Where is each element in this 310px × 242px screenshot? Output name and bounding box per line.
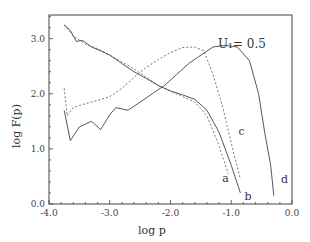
curve-label-a: a <box>222 172 229 185</box>
x-tick-labels: -4.0-3.0-2.0-1.00.0 <box>40 208 299 218</box>
x-tick-label: -2.0 <box>162 208 180 218</box>
y-tick-label: 0.0 <box>31 199 46 209</box>
curve-d <box>64 45 274 195</box>
x-tick-label: 0.0 <box>285 208 300 218</box>
y-tick-label: 1.0 <box>31 144 46 154</box>
chart: -4.0-3.0-2.0-1.00.0 0.01.02.03.0 abcd U₁… <box>0 0 310 242</box>
y-tick-label: 3.0 <box>31 34 46 44</box>
curve-b <box>64 25 240 193</box>
x-tick-label: -3.0 <box>101 208 119 218</box>
x-axis-title: log p <box>138 224 166 237</box>
curve-label-b: b <box>245 190 252 203</box>
x-tick-label: -4.0 <box>40 208 58 218</box>
curve-a <box>64 25 228 174</box>
curve-c <box>64 47 240 179</box>
y-axis-title: log F(p) <box>10 104 23 148</box>
curve-label-c: c <box>239 125 245 138</box>
y-tick-label: 2.0 <box>31 89 46 99</box>
curve-labels: abcd <box>222 125 288 202</box>
y-tick-labels: 0.01.02.03.0 <box>31 34 46 209</box>
curve-label-d: d <box>281 173 288 186</box>
annotation-u1: U₁= 0.5 <box>218 37 266 51</box>
x-tick-label: -1.0 <box>223 208 241 218</box>
